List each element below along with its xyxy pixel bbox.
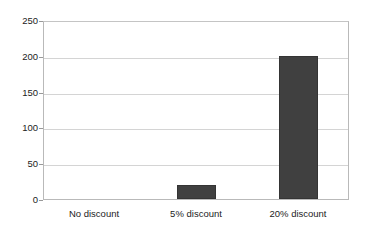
y-axis-tick-label: 100 — [22, 124, 38, 134]
y-axis-tick-label: 0 — [33, 195, 38, 205]
bar-chart-figure: 050100150200250 No discount5% discount20… — [0, 0, 368, 239]
x-axis-tick-label: 5% discount — [170, 209, 222, 219]
plot-area — [43, 21, 349, 200]
x-axis-tick-label: No discount — [69, 209, 119, 219]
gridline — [44, 94, 348, 95]
gridline — [44, 165, 348, 166]
gridline — [44, 129, 348, 130]
y-axis-tick-label: 50 — [27, 159, 38, 169]
y-axis-tick-mark — [39, 164, 43, 165]
y-axis-tick-label: 200 — [22, 52, 38, 62]
y-axis-tick-label: 250 — [22, 16, 38, 26]
y-axis-tick-mark — [39, 21, 43, 22]
y-axis-tick-mark — [39, 57, 43, 58]
y-axis-tick-label: 150 — [22, 88, 38, 98]
y-axis-tick-mark — [39, 128, 43, 129]
y-axis-tick-mark — [39, 200, 43, 201]
y-axis-tick-mark — [39, 93, 43, 94]
gridline — [44, 58, 348, 59]
x-axis-tick-label: 20% discount — [269, 209, 326, 219]
